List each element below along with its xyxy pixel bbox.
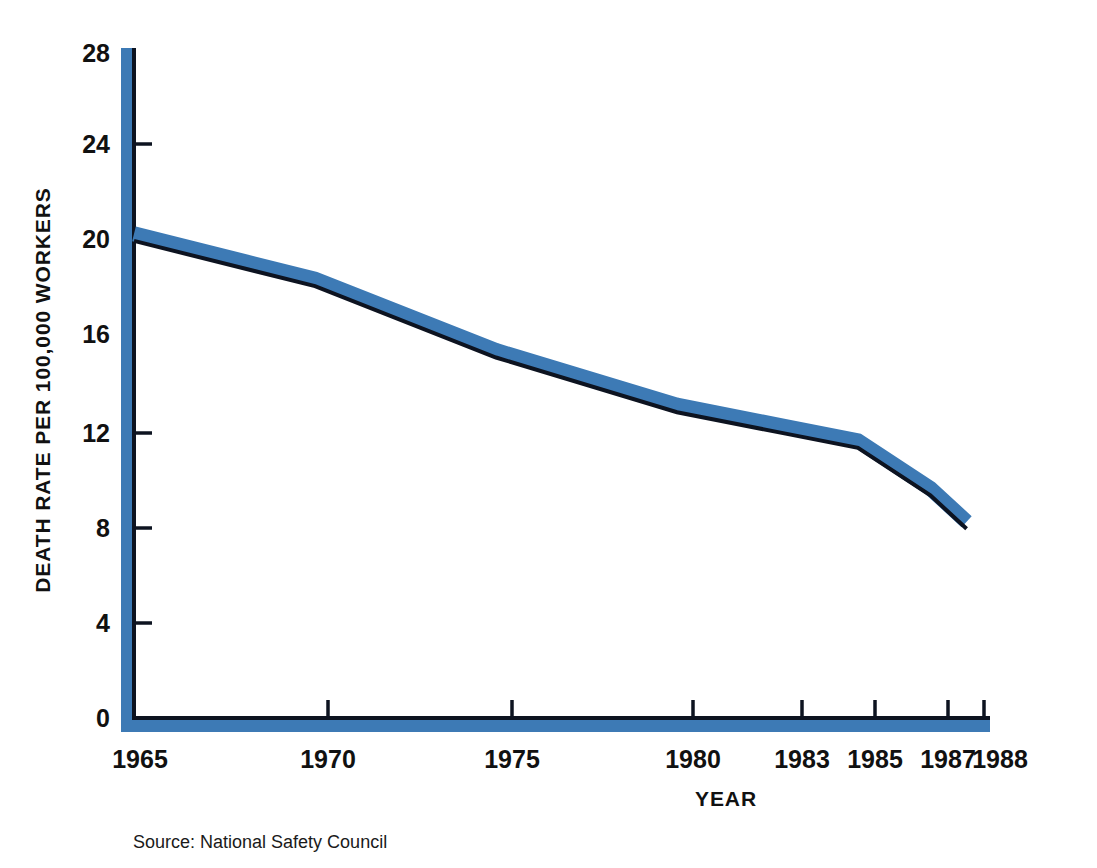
line-chart: 28 24 20 16 12 8 4 0 1965 1970 1975 1980… xyxy=(0,0,1097,868)
chart-container: 28 24 20 16 12 8 4 0 1965 1970 1975 1980… xyxy=(0,0,1097,868)
x-axis-shadow-band xyxy=(121,720,990,732)
y-tick-label-16: 16 xyxy=(82,320,110,348)
x-tick-label-1988: 1988 xyxy=(972,745,1028,773)
y-axis-tick-marks xyxy=(134,144,152,623)
y-tick-label-0: 0 xyxy=(96,704,110,732)
x-tick-label-1980: 1980 xyxy=(665,745,721,773)
x-tick-label-1965: 1965 xyxy=(112,745,168,773)
y-tick-label-24: 24 xyxy=(82,130,110,158)
source-note: Source: National Safety Council xyxy=(133,832,387,853)
data-line-edge xyxy=(134,241,967,529)
y-tick-label-28: 28 xyxy=(82,39,110,67)
x-tick-label-1983: 1983 xyxy=(774,745,830,773)
y-axis-title: DEATH RATE PER 100,000 WORKERS xyxy=(31,187,54,592)
x-axis-tick-marks xyxy=(328,700,984,718)
y-tick-label-4: 4 xyxy=(96,609,110,637)
y-tick-label-8: 8 xyxy=(96,514,110,542)
x-tick-label-1985: 1985 xyxy=(847,745,903,773)
x-tick-label-1970: 1970 xyxy=(300,745,356,773)
y-tick-label-20: 20 xyxy=(82,225,110,253)
y-tick-label-12: 12 xyxy=(82,419,110,447)
x-tick-label-1975: 1975 xyxy=(484,745,540,773)
x-tick-label-1987: 1987 xyxy=(920,745,976,773)
y-axis-shadow-band xyxy=(121,48,133,730)
data-line-band xyxy=(134,234,967,522)
x-axis-title: YEAR xyxy=(695,787,757,810)
